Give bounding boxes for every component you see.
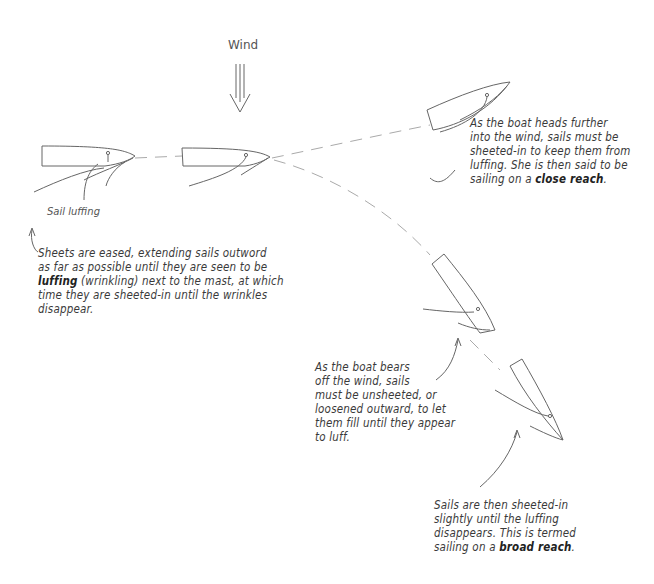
boat-5 [495, 359, 563, 440]
boat-2 [182, 148, 270, 186]
note-broad-reach: Sails are then sheeted-in slightly until… [434, 498, 576, 554]
boat-4 [423, 254, 495, 333]
wind-arrow-icon [230, 64, 250, 112]
note-luffing: Sheets are eased, extending sails outwor… [38, 246, 284, 316]
note-close-reach: As the boat heads further into the wind,… [470, 116, 631, 186]
boat-1 [34, 146, 135, 200]
note-bear-off: As the boat bears off the wind, sails mu… [315, 360, 455, 444]
sail-luffing-label: Sail luffing [47, 206, 100, 217]
wind-label: Wind [228, 38, 258, 52]
